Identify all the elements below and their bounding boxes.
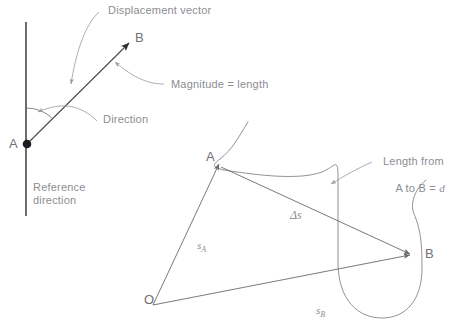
annotation-direction: Direction <box>103 113 148 126</box>
bottom-point-b-label: B <box>425 247 434 261</box>
annotation-length-prefix: A to B = <box>395 182 439 194</box>
direction-leader <box>38 106 97 121</box>
vector-sa-label: sA <box>186 227 206 268</box>
vector-delta-s-arrow <box>221 167 410 254</box>
length-annotation-leader <box>331 162 372 184</box>
top-point-a-label: A <box>9 137 18 151</box>
origin-label: O <box>144 293 154 307</box>
annotation-length-symbol: d <box>439 182 445 194</box>
angle-arc <box>26 108 53 119</box>
displacement-vector-arrow <box>27 43 129 144</box>
magnitude-leader <box>115 62 164 84</box>
trajectory-curve <box>214 122 426 318</box>
annotation-length-line2: A to B = d <box>383 169 445 208</box>
top-point-b-label: B <box>135 31 144 45</box>
bottom-point-a-label: A <box>206 150 215 164</box>
vector-sb-subscript: B <box>320 310 325 319</box>
annotation-length-line1: Length from <box>383 155 444 168</box>
displacement-vector-leader <box>71 12 99 84</box>
vector-sa-subscript: A <box>201 245 206 254</box>
point-a-dot <box>23 140 32 149</box>
reference-direction-label-line1: Reference <box>33 181 86 194</box>
annotation-displacement-vector: Displacement vector <box>108 4 211 17</box>
figure-root: Displacement vector Magnitude = length D… <box>0 0 462 332</box>
vector-delta-s-label: Δs <box>290 209 302 221</box>
vector-sb-label: sB <box>305 292 325 332</box>
reference-direction-label-line2: direction <box>33 194 76 207</box>
annotation-magnitude: Magnitude = length <box>171 78 268 91</box>
